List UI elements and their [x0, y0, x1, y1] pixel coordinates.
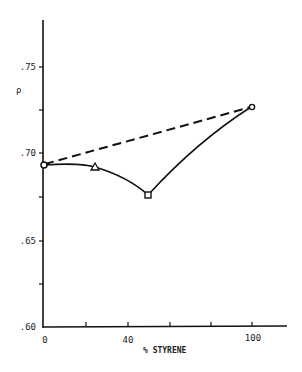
x-axis — [43, 326, 287, 327]
square-marker — [145, 192, 151, 198]
x-tick-label: 0 — [42, 335, 47, 345]
y-tick-label: .75 — [20, 62, 36, 72]
x-axis-title: % STYRENE — [143, 346, 187, 355]
chart: .75 .70 .65 .60 ρ 0 40 100 % STYRENE — [0, 0, 302, 372]
solid-series — [45, 107, 251, 195]
dashed-series — [45, 107, 251, 164]
circle-marker — [41, 162, 47, 168]
y-axis-title: ρ — [16, 85, 21, 95]
x-ticks — [86, 322, 252, 326]
x-tick-label: 100 — [245, 333, 261, 343]
y-tick-label: .60 — [20, 322, 36, 332]
x-tick-label: 40 — [123, 335, 134, 345]
y-tick-label: .70 — [20, 148, 36, 158]
y-tick-label: .65 — [20, 236, 36, 246]
circle-marker — [249, 104, 254, 109]
